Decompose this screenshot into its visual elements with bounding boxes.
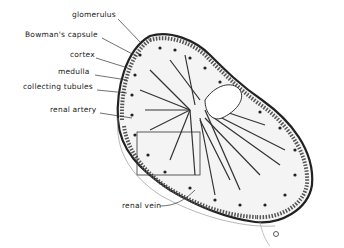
label-medulla: medulla bbox=[58, 67, 90, 76]
label-bowmans-capsule: Bowman's capsule bbox=[25, 30, 98, 39]
label-collecting-tubules: collecting tubules bbox=[23, 82, 93, 91]
label-glomerulus: glomerulus bbox=[72, 10, 116, 19]
label-cortex: cortex bbox=[70, 50, 95, 59]
vessel-circle bbox=[274, 232, 279, 237]
label-renal-vein: renal vein bbox=[122, 201, 161, 210]
label-renal-artery: renal artery bbox=[50, 105, 97, 114]
